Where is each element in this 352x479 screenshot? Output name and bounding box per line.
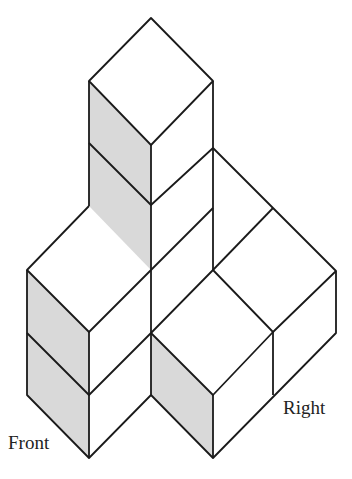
front-label: Front (8, 432, 49, 454)
shaded-left-faces (27, 81, 213, 458)
cube-edge (151, 208, 213, 270)
shaded-face (89, 81, 151, 270)
cube-edge (151, 270, 336, 333)
shaded-face (151, 333, 213, 458)
cube-edge (213, 208, 273, 270)
right-label: Right (283, 397, 325, 419)
